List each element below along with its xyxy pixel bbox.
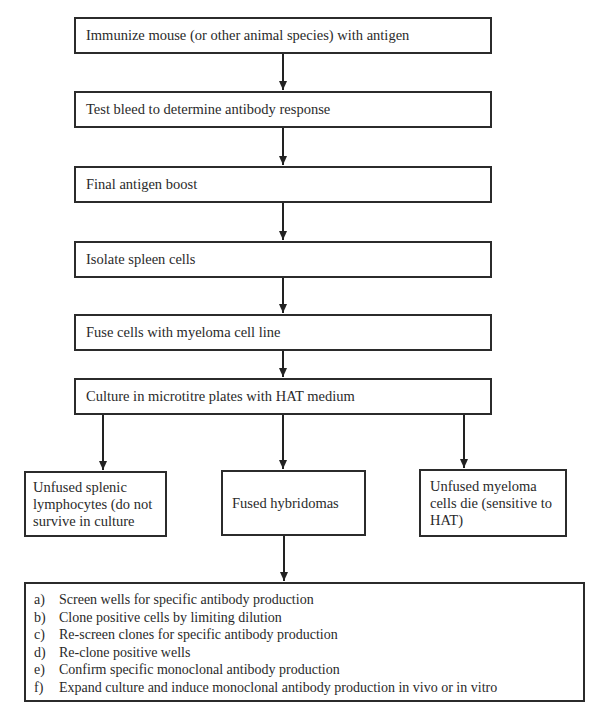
list-item-label: Expand culture and induce monoclonal ant… [59, 679, 497, 697]
list-marker: d) [26, 644, 59, 662]
arrowhead-icon [460, 459, 468, 468]
step-isolate-spleen: Isolate spleen cells [74, 241, 492, 278]
branch-fused-hybridomas: Fused hybridomas [221, 470, 366, 536]
arrowhead-icon [279, 304, 287, 313]
arrowhead-icon [279, 81, 287, 90]
final-steps-box: a)Screen wells for specific antibody pro… [24, 582, 585, 702]
list-marker: b) [26, 609, 59, 627]
list-item-label: Confirm specific monoclonal antibody pro… [59, 661, 340, 679]
step-culture: Culture in microtitre plates with HAT me… [74, 378, 492, 415]
branch-unfused-splenic: Unfused splenic lymphocytes (do not surv… [24, 471, 167, 537]
step-label: Test bleed to determine antibody respons… [86, 101, 330, 118]
step-label: Culture in microtitre plates with HAT me… [86, 388, 355, 405]
arrowhead-icon [280, 572, 288, 581]
final-steps-list: a)Screen wells for specific antibody pro… [26, 591, 583, 696]
list-item: a)Screen wells for specific antibody pro… [26, 591, 583, 609]
list-item: c)Re-screen clones for specific antibody… [26, 626, 583, 644]
step-final-boost: Final antigen boost [74, 166, 492, 203]
list-item-label: Re-screen clones for specific antibody p… [59, 626, 338, 644]
arrowhead-icon [279, 368, 287, 377]
list-item-label: Clone positive cells by limiting dilutio… [59, 609, 282, 627]
step-label: Fuse cells with myeloma cell line [86, 324, 281, 341]
list-marker: f) [26, 679, 59, 697]
list-marker: c) [26, 626, 59, 644]
step-label: Final antigen boost [86, 176, 197, 193]
list-item: f)Expand culture and induce monoclonal a… [26, 679, 583, 697]
step-test-bleed: Test bleed to determine antibody respons… [74, 91, 492, 128]
step-label: Immunize mouse (or other animal species)… [86, 27, 409, 44]
branch-label: Unfused myeloma cells die (sensitive to … [430, 478, 558, 529]
list-item: d)Re-clone positive wells [26, 644, 583, 662]
step-immunize: Immunize mouse (or other animal species)… [74, 17, 492, 54]
list-item-label: Re-clone positive wells [59, 644, 190, 662]
list-item: e)Confirm specific monoclonal antibody p… [26, 661, 583, 679]
arrowhead-icon [279, 231, 287, 240]
step-fuse-cells: Fuse cells with myeloma cell line [74, 314, 492, 351]
step-label: Isolate spleen cells [86, 251, 196, 268]
branch-label: Unfused splenic lymphocytes (do not surv… [33, 479, 158, 530]
arrowhead-icon [279, 156, 287, 165]
list-item-label: Screen wells for specific antibody produ… [59, 591, 314, 609]
arrowhead-icon [99, 461, 107, 470]
branch-unfused-myeloma: Unfused myeloma cells die (sensitive to … [419, 469, 567, 537]
arrowhead-icon [279, 460, 287, 469]
list-marker: e) [26, 661, 59, 679]
list-marker: a) [26, 591, 59, 609]
list-item: b)Clone positive cells by limiting dilut… [26, 609, 583, 627]
branch-label: Fused hybridomas [232, 495, 339, 512]
